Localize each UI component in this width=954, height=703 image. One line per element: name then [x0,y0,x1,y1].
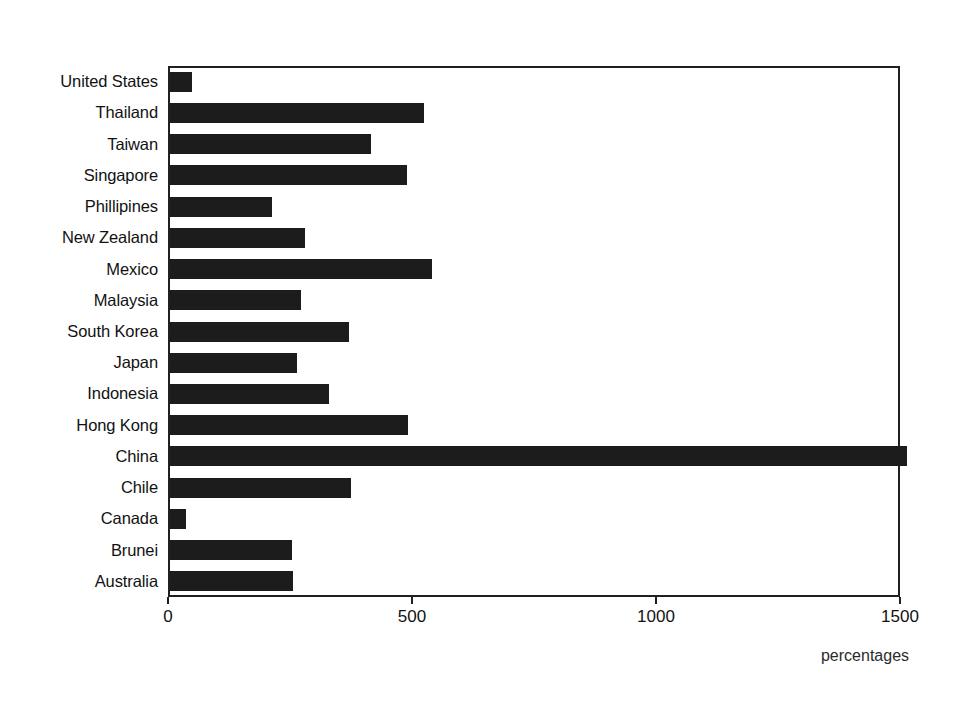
category-label: United States [0,73,158,90]
category-label: Malaysia [0,292,158,309]
x-tick-mark [167,597,169,604]
category-label: Japan [0,354,158,371]
bar [170,509,186,529]
category-label: South Korea [0,323,158,340]
bar [170,322,349,342]
x-tick-label: 1500 [881,608,919,626]
bar [170,197,272,217]
category-axis-labels: United StatesThailandTaiwanSingaporePhil… [0,66,163,597]
bar [170,72,192,92]
category-label: Singapore [0,167,158,184]
bar [170,446,907,466]
bar [170,540,292,560]
bars-layer [170,66,930,597]
bar [170,384,329,404]
x-axis-ticks: 050010001500 [0,597,954,637]
bar [170,571,293,591]
category-label: New Zealand [0,229,158,246]
bar-chart: United StatesThailandTaiwanSingaporePhil… [0,0,954,703]
x-tick-mark [899,597,901,604]
bar [170,103,424,123]
bar [170,353,297,373]
bar [170,290,301,310]
category-label: Phillipines [0,198,158,215]
category-label: Taiwan [0,136,158,153]
x-tick-label: 1000 [637,608,675,626]
bar [170,259,432,279]
category-label: Chile [0,479,158,496]
category-label: Brunei [0,542,158,559]
category-label: Hong Kong [0,417,158,434]
x-axis-title: percentages [790,647,940,665]
category-label: Thailand [0,104,158,121]
x-tick-label: 500 [398,608,426,626]
category-label: Canada [0,510,158,527]
bar [170,478,351,498]
category-label: Australia [0,573,158,590]
bar [170,134,371,154]
x-tick-mark [411,597,413,604]
category-label: Indonesia [0,385,158,402]
bar [170,228,305,248]
x-tick-mark [655,597,657,604]
category-label: China [0,448,158,465]
category-label: Mexico [0,261,158,278]
x-tick-label: 0 [163,608,172,626]
bar [170,415,408,435]
bar [170,165,407,185]
